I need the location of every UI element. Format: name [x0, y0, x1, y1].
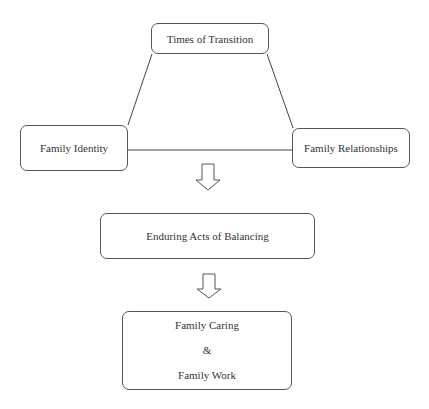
- node-label-line1: Family Caring: [175, 320, 239, 331]
- node-family-identity: Family Identity: [20, 125, 128, 171]
- node-times-of-transition: Times of Transition: [151, 23, 269, 54]
- node-family-caring-and-work: Family Caring & Family Work: [122, 311, 292, 390]
- node-family-relationships: Family Relationships: [292, 128, 410, 168]
- node-label-line3: Family Work: [178, 370, 236, 381]
- node-enduring-acts-of-balancing: Enduring Acts of Balancing: [100, 213, 315, 259]
- node-label: Times of Transition: [167, 33, 253, 45]
- node-label-line2: &: [203, 345, 212, 356]
- node-label: Enduring Acts of Balancing: [146, 230, 269, 242]
- down-arrow-icon: [197, 274, 221, 298]
- node-label: Family Identity: [40, 142, 108, 154]
- down-arrow-icon: [196, 164, 220, 190]
- node-label: Family Relationships: [304, 142, 398, 154]
